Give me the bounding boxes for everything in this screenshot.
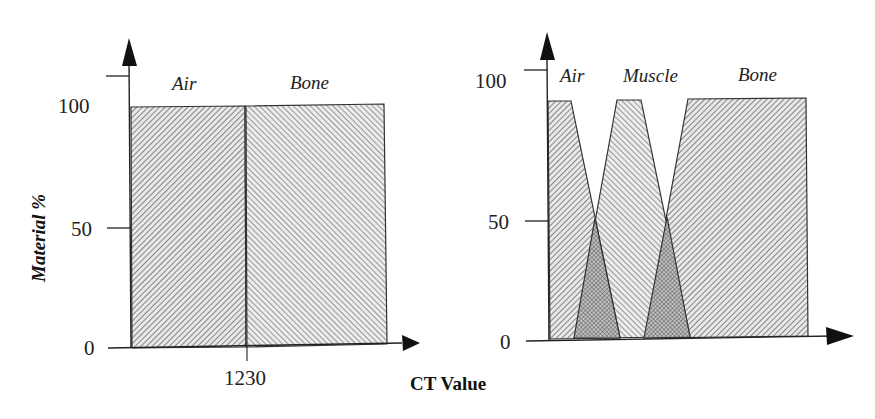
y-tick-label-0: 0: [500, 330, 511, 354]
region-label-bone: Bone: [290, 72, 329, 93]
y-tick-label-100: 100: [58, 94, 90, 118]
y-axis: [129, 58, 131, 348]
y-axis-arrow-icon: [122, 38, 137, 66]
y-axis-title: Material %: [28, 194, 49, 283]
region-label-bone: Bone: [738, 64, 777, 85]
left-chart: 100 50 0 1230 Air Bone Material %: [28, 38, 420, 390]
y-axis-arrow-icon: [540, 32, 555, 60]
y-tick-label-0: 0: [84, 336, 95, 360]
air-region: [131, 106, 246, 348]
right-chart: 100 50 0 Air Muscle Bone: [475, 32, 854, 354]
region-label-air: Air: [558, 65, 585, 86]
bone-region: [245, 104, 387, 347]
x-axis-arrow-icon: [402, 335, 420, 351]
figure-canvas: 100 50 0 1230 Air Bone Material % CT Val…: [0, 0, 875, 419]
region-label-air: Air: [170, 73, 197, 94]
y-tick-label-50: 50: [488, 210, 509, 234]
region-label-muscle: Muscle: [622, 65, 678, 86]
x-axis-arrow-icon: [826, 327, 854, 345]
x-axis-title: CT Value: [410, 373, 486, 394]
y-tick-label-50: 50: [71, 217, 92, 241]
y-axis: [547, 56, 549, 340]
y-tick-label-100: 100: [475, 69, 507, 93]
x-tick-label-threshold: 1230: [224, 366, 266, 390]
